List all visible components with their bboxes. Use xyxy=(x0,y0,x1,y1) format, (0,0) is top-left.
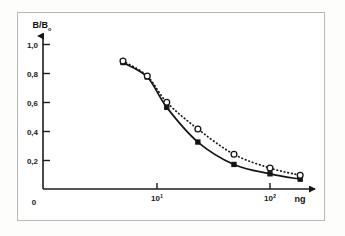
y-tick-label-0.6: 0,6 xyxy=(27,99,39,108)
chart-plot: 1,0 0,8 0,6 0,4 0,2 B/Bo 101 102 ng 0 xyxy=(0,0,345,236)
x-tick-exponent-1: 1 xyxy=(160,193,163,199)
y-tick-label-1.0: 1,0 xyxy=(27,41,39,50)
x-tick-exponent-2: 2 xyxy=(273,193,276,199)
data-point-solid-curve-3 xyxy=(196,140,200,144)
data-point-dotted-curve-3 xyxy=(195,126,201,132)
data-series-layer xyxy=(120,58,303,181)
figure-root: 1,0 0,8 0,6 0,4 0,2 B/Bo 101 102 ng 0 xyxy=(0,0,345,236)
data-point-solid-curve-4 xyxy=(232,162,236,166)
data-point-solid-curve-5 xyxy=(268,172,272,176)
data-point-dotted-curve-4 xyxy=(231,151,237,157)
x-axis-group: 101 102 ng 0 xyxy=(32,183,315,207)
y-axis-title-subscript: o xyxy=(48,26,52,32)
x-tick-label-10e2: 102 xyxy=(264,193,276,204)
data-point-dotted-curve-1 xyxy=(144,73,150,79)
y-axis-group: 1,0 0,8 0,6 0,4 0,2 B/Bo xyxy=(27,20,52,189)
y-tick-label-0.2: 0,2 xyxy=(27,157,39,166)
data-point-dotted-curve-2 xyxy=(164,99,170,105)
data-point-solid-curve-2 xyxy=(165,105,169,109)
y-tick-label-0.8: 0,8 xyxy=(27,70,39,79)
data-point-dotted-curve-6 xyxy=(297,172,303,178)
x-tick-label-10e1: 101 xyxy=(151,193,163,204)
curve-solid xyxy=(123,63,300,180)
data-point-dotted-curve-0 xyxy=(120,58,126,64)
series-dotted-curve xyxy=(120,58,303,178)
data-point-dotted-curve-5 xyxy=(267,165,273,171)
y-axis-title: B/Bo xyxy=(33,20,53,32)
y-tick-label-0.4: 0,4 xyxy=(27,128,39,137)
origin-label: 0 xyxy=(32,198,37,207)
y-axis-title-main: B/B xyxy=(33,20,49,30)
x-axis-unit-label: ng xyxy=(295,194,306,204)
